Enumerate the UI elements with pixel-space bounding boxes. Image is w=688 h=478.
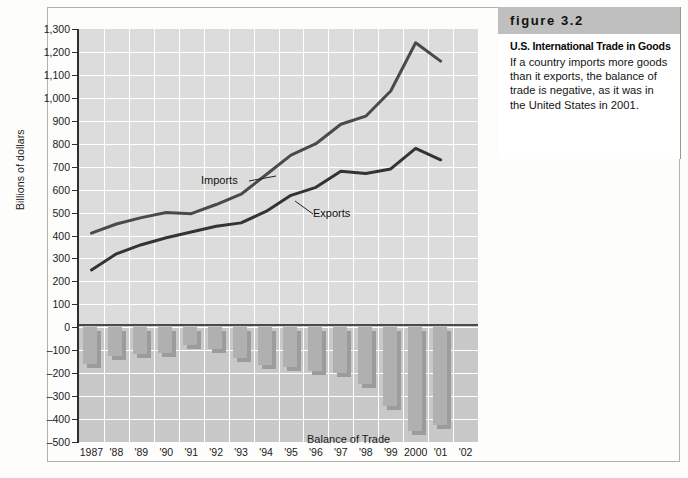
figure-caption-panel: figure 3.2 U.S. International Trade in G… [498,7,681,159]
y-tick-mark [72,190,78,191]
figure-title: U.S. International Trade in Goods [510,40,676,52]
figure-caption-text: If a country imports more goods than it … [510,55,670,112]
y-tick-mark [72,29,78,30]
series-label-imports: Imports [201,174,238,186]
y-tick-mark [72,258,78,259]
y-tick-mark [72,327,78,328]
chart-figure: Billions of dollars Balance of Trade 1,3… [0,0,500,478]
y-tick-mark [72,52,78,53]
y-tick-mark [72,373,78,374]
page-canvas: Billions of dollars Balance of Trade 1,3… [0,0,688,478]
x-tick-label: '02 [449,446,483,458]
y-tick-mark [72,98,78,99]
figure-header-bar: figure 3.2 [498,7,680,34]
y-tick-mark [72,121,78,122]
y-tick-mark [72,144,78,145]
figure-number: figure 3.2 [510,13,584,28]
y-tick-mark [72,304,78,305]
y-tick-mark [72,75,78,76]
y-tick-mark [72,236,78,237]
x-axis-tick-labels: 1987'88'89'90'91'92'93'94'95'96'97'98'99… [0,0,500,478]
series-label-exports: Exports [313,207,350,219]
y-tick-mark [72,350,78,351]
y-tick-mark [72,442,78,443]
y-tick-mark [72,396,78,397]
y-tick-mark [72,213,78,214]
y-tick-mark [72,281,78,282]
y-tick-mark [72,167,78,168]
y-tick-mark [72,419,78,420]
